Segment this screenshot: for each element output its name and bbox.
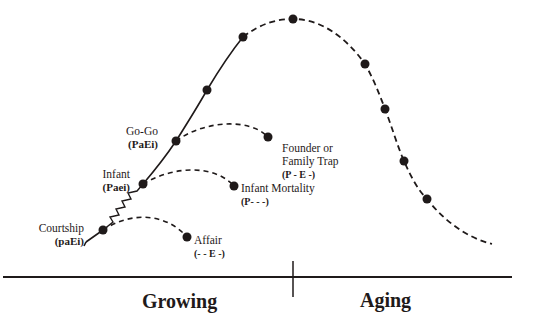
trap-name-line1: Founder or [282,142,339,155]
trap-name: Infant Mortality [241,182,315,195]
stage-label-go-go: Go-Go (PaEi) [84,125,158,151]
phase-label-growing: Growing [142,290,217,313]
bureaucracy-dot [400,157,409,166]
stage-code: (PaEi) [84,138,158,151]
stage-name: Infant [56,168,130,181]
courtship-dot [99,226,108,235]
phase-label-aging: Aging [360,289,411,312]
infant-mortality-dot [230,182,239,191]
adolescence-dot [203,86,212,95]
affair-dot [183,233,192,242]
prime-dot [239,33,248,42]
stage-name: Go-Go [84,125,158,138]
go-go-dot [172,137,181,146]
trap-label-affair: Affair (- - E -) [194,234,225,260]
trap-label-founder: Founder or Family Trap (P - E -) [282,142,339,181]
founder-trap-dot [264,133,273,142]
stage-label-courtship: Courtship (paEi) [14,222,84,248]
lifecycle-diagram: Courtship (paEi) Infant (Paei) Go-Go (Pa… [0,0,533,326]
stage-code: (paEi) [14,235,84,248]
trap-label-infant-mortality: Infant Mortality (P- - -) [241,182,315,208]
growth-curve-solid [143,37,243,184]
trap-name: Affair [194,234,225,247]
trap-code: (P- - -) [241,195,315,208]
founder-trap-branch [176,124,268,141]
stable-dot [289,15,298,24]
infant-dot [139,180,148,189]
stage-label-infant: Infant (Paei) [56,168,130,194]
stage-name: Courtship [14,222,84,235]
trap-code: (- - E -) [194,247,225,260]
trap-name-line2: Family Trap [282,155,339,168]
early-bureaucracy-dot [381,105,390,114]
aging-curve-dashed [243,19,492,244]
stage-code: (Paei) [56,181,130,194]
affair-branch [103,217,187,237]
death-dot [423,195,432,204]
infant-mortality-branch [143,170,234,186]
trap-code: (P - E -) [282,168,339,181]
aristocracy-dot [361,60,370,69]
lifecycle-curve-graphic [0,0,533,326]
